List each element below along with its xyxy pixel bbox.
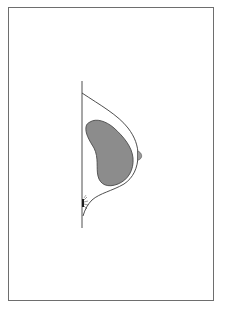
implant: [86, 120, 133, 186]
breast-implant-diagram: [0, 0, 225, 309]
nipple: [138, 151, 142, 160]
